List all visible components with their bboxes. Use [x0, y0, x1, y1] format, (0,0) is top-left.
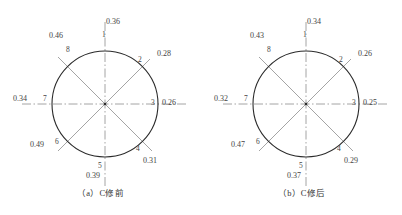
spoke-index-7: 7 [244, 95, 248, 103]
spoke-index-3: 3 [352, 99, 356, 107]
spoke-value-3: 0.25 [363, 99, 377, 107]
spoke-value-4: 0.31 [143, 157, 157, 165]
spoke-index-5: 5 [98, 162, 102, 170]
spoke-index-1: 1 [102, 31, 106, 39]
panel-b-diagram [201, 0, 402, 188]
figure-two-circle-measurement-diagrams: 1 2 3 4 5 6 7 8 0.36 0.28 0.26 0.31 0.39… [0, 0, 402, 215]
spoke-value-6: 0.47 [231, 141, 245, 149]
spoke-index-6: 6 [256, 138, 260, 146]
spoke-value-6: 0.49 [30, 141, 44, 149]
spoke-line-2-6 [259, 59, 351, 151]
spoke-index-4: 4 [136, 145, 140, 153]
panel-a: 1 2 3 4 5 6 7 8 0.36 0.28 0.26 0.31 0.39… [0, 0, 201, 215]
spoke-value-8: 0.43 [250, 32, 264, 40]
spoke-value-2: 0.28 [157, 50, 171, 58]
spoke-value-7: 0.34 [13, 95, 27, 103]
spoke-index-7: 7 [43, 95, 47, 103]
spoke-index-6: 6 [55, 138, 59, 146]
panel-a-caption: （a）C修前 [0, 186, 201, 198]
center-point [305, 103, 308, 106]
spoke-value-2: 0.26 [358, 50, 372, 58]
spoke-index-3: 3 [151, 99, 155, 107]
panel-a-diagram [0, 0, 201, 188]
spoke-index-2: 2 [138, 56, 142, 64]
spoke-index-1: 1 [303, 31, 307, 39]
spoke-index-4: 4 [337, 145, 341, 153]
panel-b: 1 2 3 4 5 6 7 8 0.34 0.26 0.25 0.29 0.37… [201, 0, 402, 215]
spoke-value-1: 0.34 [307, 18, 321, 26]
spoke-value-4: 0.29 [344, 157, 358, 165]
spoke-index-8: 8 [66, 46, 70, 54]
spoke-value-8: 0.46 [49, 32, 63, 40]
spoke-index-2: 2 [339, 56, 343, 64]
spoke-line-2-6 [58, 59, 150, 151]
spoke-value-5: 0.39 [86, 172, 100, 180]
spoke-value-7: 0.32 [214, 95, 228, 103]
center-point [104, 103, 107, 106]
spoke-value-3: 0.26 [162, 99, 176, 107]
spoke-value-5: 0.37 [287, 172, 301, 180]
spoke-index-8: 8 [267, 46, 271, 54]
spoke-index-5: 5 [299, 162, 303, 170]
spoke-value-1: 0.36 [106, 18, 120, 26]
panel-b-caption: （b）C修后 [201, 186, 402, 198]
